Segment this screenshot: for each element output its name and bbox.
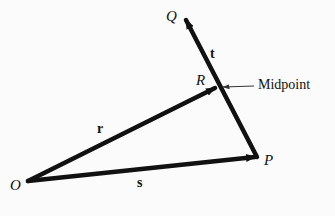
vector-diagram-graphics	[0, 0, 335, 216]
vector-diagram: Q t R Midpoint r P O s	[0, 0, 335, 216]
point-label-r: R	[196, 73, 205, 88]
point-label-p: P	[264, 153, 273, 168]
vector-label-r: r	[97, 122, 103, 136]
vector-label-s: s	[137, 176, 142, 190]
vector-t-arrow	[186, 20, 257, 157]
point-label-o: O	[10, 178, 21, 193]
vector-label-t: t	[210, 47, 215, 61]
midpoint-pointer-arrow	[223, 86, 254, 87]
vector-r-arrow	[28, 88, 215, 181]
point-label-q: Q	[166, 9, 177, 24]
midpoint-annotation: Midpoint	[258, 78, 310, 92]
